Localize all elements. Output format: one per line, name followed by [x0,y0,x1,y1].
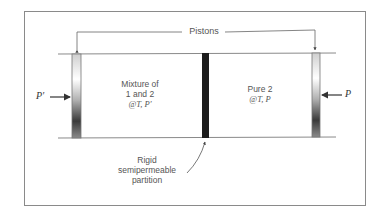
pistons-leader-left [77,32,182,50]
right-chamber-line1: Pure 2 [232,84,288,94]
pistons-label: Pistons [184,26,224,36]
left-chamber-label: Mixture of 1 and 2 @T, P′ [110,79,170,109]
cylinder-top-wall [58,53,336,54]
partition-label: Rigid semipermeable partition [112,155,182,185]
right-pressure-label: P [345,88,351,99]
left-pressure-label: P′ [36,90,44,101]
left-chamber-line2: 1 and 2 [110,89,170,99]
left-chamber-line1: Mixture of [110,79,170,89]
cylinder-bottom-wall [58,137,336,138]
partition-callout-arrow-icon [187,142,205,173]
partition-label-line1: Rigid [112,155,182,165]
semipermeable-partition [202,53,209,138]
right-chamber-label: Pure 2 @T, P [232,84,288,104]
right-piston[interactable] [312,53,320,137]
pistons-leader-right [225,30,315,50]
left-piston[interactable] [72,54,81,138]
partition-label-line2: semipermeable [112,165,182,175]
partition-label-line3: partition [112,175,182,185]
left-chamber-conditions: @T, P′ [110,99,170,109]
right-chamber-conditions: @T, P [232,94,288,104]
